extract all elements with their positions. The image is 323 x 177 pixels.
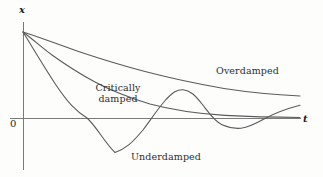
curve-label-underdamped: Underdamped [131,151,201,162]
curve-label-critically-damped: Critically damped [88,82,148,104]
curve-underdamped [23,32,300,153]
y-axis-label: x [19,5,25,15]
damping-regimes-figure: x t 0 Overdamped Critically damped Under… [0,0,323,177]
origin-label: 0 [10,119,16,129]
curve-label-critically-damped-line2: damped [88,93,148,104]
curve-label-overdamped: Overdamped [216,65,279,76]
curve-label-critically-damped-line1: Critically [88,82,148,93]
x-axis-label: t [303,114,308,124]
